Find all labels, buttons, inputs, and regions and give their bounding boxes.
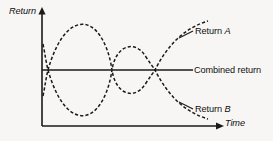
x-axis-label: Time <box>225 118 245 128</box>
return-a-curve <box>43 21 208 96</box>
return-a-label: Return A <box>195 26 230 36</box>
y-axis-label: Return <box>9 6 36 16</box>
x-axis <box>42 122 224 129</box>
return-b-label: Return B <box>195 104 230 114</box>
x-axis-arrowhead <box>216 122 224 129</box>
combined-return-label: Combined return <box>194 65 261 75</box>
return-diversification-chart: Return Time Return A Combined return Ret… <box>0 0 273 141</box>
return-b-curve <box>43 44 208 119</box>
y-axis <box>38 7 45 126</box>
y-axis-arrowhead <box>38 7 45 15</box>
